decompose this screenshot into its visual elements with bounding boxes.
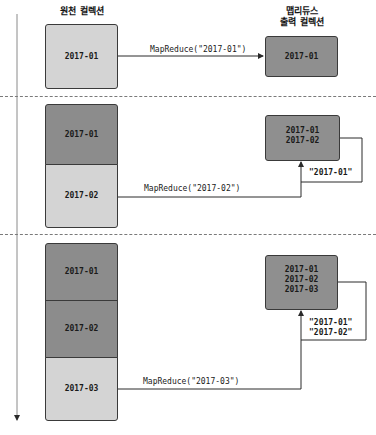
stage2-call-label: MapReduce("2017-02")	[144, 184, 240, 194]
stage-divider	[0, 96, 376, 97]
stage3-call-label: MapReduce("2017-03")	[143, 377, 239, 387]
stage1-output-box: 2017-01	[265, 36, 338, 77]
block-label: 2017-01	[65, 52, 99, 62]
output-line: 2017-01	[285, 265, 319, 275]
stage2-output-box: 2017-01 2017-02	[265, 115, 340, 161]
stage1-call-label: MapReduce("2017-01")	[150, 45, 246, 55]
output-collection-title-line2: 출력 컬렉션	[262, 17, 342, 28]
output-line: 2017-01	[285, 52, 319, 62]
output-collection-title-line1: 맵리듀스	[262, 6, 342, 17]
source-collection-header: 원천 컬렉션	[44, 6, 120, 17]
block-label: 2017-01	[65, 267, 99, 277]
block-label: 2017-02	[65, 324, 99, 334]
output-collection-header: 맵리듀스 출력 컬렉션	[262, 6, 342, 28]
stage2-feedback-label: "2017-01"	[309, 168, 352, 178]
output-line: 2017-02	[286, 136, 320, 146]
stage3-feedback-label-1: "2017-01"	[309, 318, 352, 328]
stage3-source-block-3: 2017-03	[45, 357, 118, 421]
stage3-source-block-1: 2017-01	[45, 243, 118, 301]
block-label: 2017-01	[65, 130, 99, 140]
output-line: 2017-02	[285, 275, 319, 285]
stage2-source-block-2: 2017-02	[45, 164, 118, 228]
stage3-feedback-label-2: "2017-02"	[309, 328, 352, 338]
stage-divider	[0, 234, 376, 235]
stage1-source-block-1: 2017-01	[45, 24, 118, 89]
block-label: 2017-02	[65, 191, 99, 201]
output-line: 2017-01	[286, 126, 320, 136]
block-label: 2017-03	[65, 384, 99, 394]
stage3-source-block-2: 2017-02	[45, 300, 118, 358]
stage2-source-block-1: 2017-01	[45, 104, 118, 165]
source-collection-title: 원천 컬렉션	[60, 6, 103, 16]
stage3-output-box: 2017-01 2017-02 2017-03	[265, 255, 338, 310]
output-line: 2017-03	[285, 285, 319, 295]
